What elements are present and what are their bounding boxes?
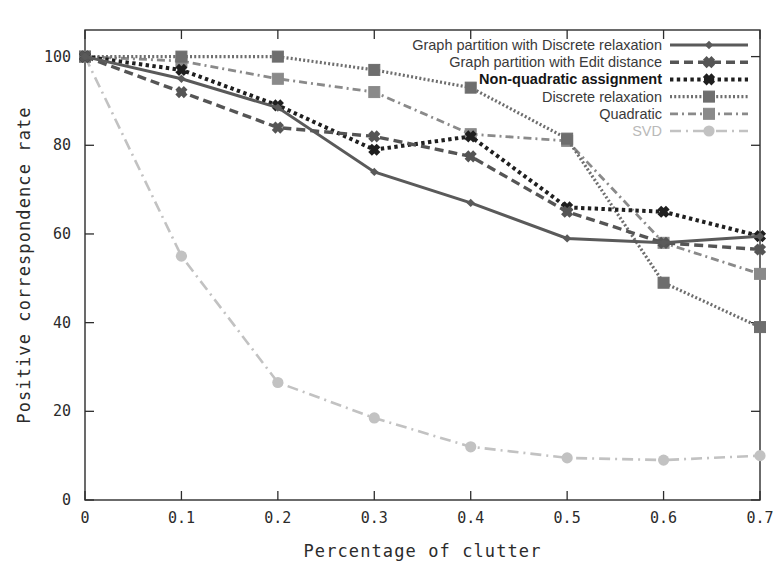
- y-tick-label: 60: [53, 225, 71, 243]
- x-tick-label: 0.7: [746, 509, 773, 527]
- legend-label: Discrete relaxation: [542, 89, 662, 105]
- legend-label: Quadratic: [599, 106, 662, 122]
- data-point-marker-square: [755, 322, 766, 333]
- data-point-marker-circle: [465, 441, 476, 452]
- data-point-marker-circle: [562, 452, 573, 463]
- legend-label: Graph partition with Discrete relaxation: [412, 37, 662, 53]
- chart-figure: 00.10.20.30.40.50.60.7020406080100 Graph…: [0, 0, 783, 581]
- y-tick-label: 40: [53, 314, 71, 332]
- x-tick-label: 0.4: [457, 509, 484, 527]
- data-point-marker-square: [272, 51, 283, 62]
- data-point-marker-square: [176, 51, 187, 62]
- y-tick-label: 0: [62, 491, 71, 509]
- x-tick-label: 0.3: [361, 509, 388, 527]
- data-point-marker-circle: [658, 454, 669, 465]
- data-point-marker-square: [704, 108, 715, 119]
- y-tick-label: 80: [53, 136, 71, 154]
- data-point-marker-circle: [272, 377, 283, 388]
- legend-label: Graph partition with Edit distance: [449, 54, 662, 70]
- x-tick-label: 0.1: [168, 509, 195, 527]
- data-point-marker-square: [272, 73, 283, 84]
- line-chart-canvas: 00.10.20.30.40.50.60.7020406080100 Graph…: [0, 0, 783, 581]
- legend-label: Non-quadratic assignment: [479, 71, 662, 87]
- y-axis-label: Positive correspondence rate: [14, 106, 34, 423]
- y-tick-label: 20: [53, 402, 71, 420]
- data-point-marker-square: [755, 268, 766, 279]
- chart-background: [0, 0, 783, 581]
- x-tick-label: 0: [80, 509, 89, 527]
- data-point-marker-circle: [754, 450, 765, 461]
- legend-label: SVD: [632, 123, 662, 139]
- data-point-marker-square: [704, 91, 715, 102]
- data-point-marker-square: [658, 277, 669, 288]
- x-tick-label: 0.2: [264, 509, 291, 527]
- data-point-marker-circle: [369, 412, 380, 423]
- data-point-marker-square: [369, 87, 380, 98]
- x-tick-label: 0.5: [554, 509, 581, 527]
- x-tick-label: 0.6: [650, 509, 677, 527]
- data-point-marker-square: [465, 82, 476, 93]
- x-axis-label: Percentage of clutter: [303, 541, 541, 561]
- y-tick-label: 100: [44, 48, 71, 66]
- data-point-marker-circle: [176, 251, 187, 262]
- data-point-marker-square: [562, 133, 573, 144]
- data-point-marker-circle: [703, 125, 714, 136]
- data-point-marker-square: [369, 64, 380, 75]
